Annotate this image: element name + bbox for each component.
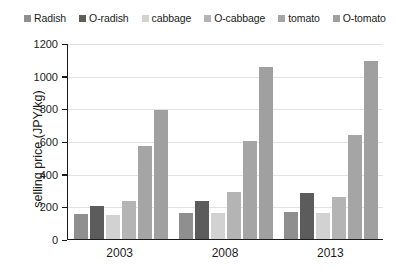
bar[interactable]: [154, 110, 168, 239]
bar-group: [179, 44, 273, 239]
y-axis-tick-label: 400: [40, 168, 58, 182]
legend-swatch-icon: [79, 15, 86, 22]
bar[interactable]: [211, 213, 225, 239]
bar[interactable]: [122, 201, 136, 239]
bar[interactable]: [348, 135, 362, 239]
bar[interactable]: [195, 201, 209, 239]
plot-area: [67, 44, 383, 240]
y-axis-tick-label: 1200: [34, 37, 58, 51]
legend-item[interactable]: O-cabbage: [204, 13, 265, 24]
legend-item-label: cabbage: [152, 13, 192, 24]
legend-item[interactable]: O-tomato: [333, 13, 386, 24]
legend-item-label: Radish: [34, 13, 66, 24]
legend-item-label: O-radish: [89, 13, 128, 24]
y-axis-tick-label: 800: [40, 102, 58, 116]
bar[interactable]: [316, 213, 330, 239]
legend-item-label: O-cabbage: [214, 13, 265, 24]
bar[interactable]: [74, 214, 88, 239]
bar[interactable]: [300, 193, 314, 239]
bar[interactable]: [259, 67, 273, 239]
legend-item[interactable]: O-radish: [79, 13, 128, 24]
bar[interactable]: [243, 141, 257, 239]
bar[interactable]: [138, 146, 152, 239]
legend-item[interactable]: Radish: [24, 13, 66, 24]
bar[interactable]: [364, 61, 378, 239]
bar-group: [74, 44, 168, 239]
bar[interactable]: [284, 212, 298, 239]
y-axis-tick-label: 1000: [34, 70, 58, 84]
bar[interactable]: [227, 192, 241, 239]
legend-swatch-icon: [278, 15, 285, 22]
bar-group: [284, 44, 378, 239]
legend-swatch-icon: [24, 15, 31, 22]
chart-legend: RadishO-radishcabbageO-cabbagetomatoO-to…: [24, 10, 384, 26]
x-axis-tick-label: 2003: [80, 246, 160, 260]
legend-swatch-icon: [333, 15, 340, 22]
legend-item[interactable]: tomato: [278, 13, 320, 24]
legend-swatch-icon: [142, 15, 149, 22]
bar-chart: RadishO-radishcabbageO-cabbagetomatoO-to…: [0, 0, 396, 272]
bar[interactable]: [106, 215, 120, 239]
y-axis-tick-label: 600: [40, 135, 58, 149]
y-axis-tick-label: 0: [52, 233, 58, 247]
y-axis-tick-label: 200: [40, 200, 58, 214]
bar[interactable]: [90, 206, 104, 239]
legend-item-label: O-tomato: [343, 13, 386, 24]
y-axis-ticks: 020040060080010001200: [0, 44, 67, 240]
x-axis-tick-label: 2013: [290, 246, 370, 260]
bar[interactable]: [332, 197, 346, 239]
bar[interactable]: [179, 213, 193, 239]
legend-item[interactable]: cabbage: [142, 13, 192, 24]
legend-swatch-icon: [204, 15, 211, 22]
legend-item-label: tomato: [288, 13, 320, 24]
x-axis-tick-label: 2008: [185, 246, 265, 260]
